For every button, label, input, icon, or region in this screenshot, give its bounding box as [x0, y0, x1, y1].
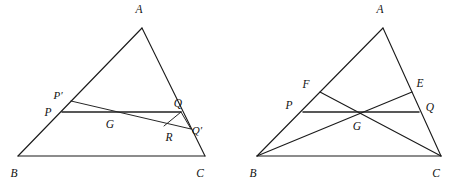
left-label-Q: Q [174, 97, 183, 109]
left-label-Q-prime: Q′ [192, 124, 203, 136]
left-label-P-prime: P′ [52, 89, 63, 101]
left-label-C: C [196, 167, 204, 179]
left-label-B: B [10, 167, 17, 179]
right-label-C: C [432, 167, 440, 179]
right-label-G: G [353, 120, 362, 132]
right-label-F: F [301, 78, 310, 90]
right-label-A: A [375, 3, 384, 15]
right-label-E: E [415, 77, 423, 89]
geometry-figure-canvas: A B C P P′ Q Q′ G R A B C P Q E F G [0, 0, 459, 186]
left-label-P: P [43, 106, 51, 118]
left-label-R: R [164, 131, 172, 143]
right-label-P: P [284, 99, 292, 111]
left-label-G: G [106, 118, 115, 130]
left-label-A: A [134, 3, 143, 15]
right-label-Q: Q [426, 101, 435, 113]
canvas-background [0, 0, 459, 186]
right-label-B: B [249, 167, 256, 179]
